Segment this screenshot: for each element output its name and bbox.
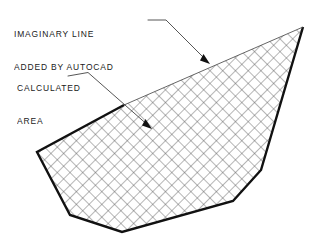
calculated-area-label-line2: AREA xyxy=(17,116,81,127)
calculated-area-label: CALCULATED AREA xyxy=(17,61,81,149)
calculated-area-label-line1: CALCULATED xyxy=(17,83,81,94)
cad-drawing-canvas: IMAGINARY LINE ADDED BY AUTOCAD CALCULAT… xyxy=(0,0,314,236)
imaginary-line-leader xyxy=(148,20,208,62)
imaginary-line-label-line1: IMAGINARY LINE xyxy=(14,29,114,40)
